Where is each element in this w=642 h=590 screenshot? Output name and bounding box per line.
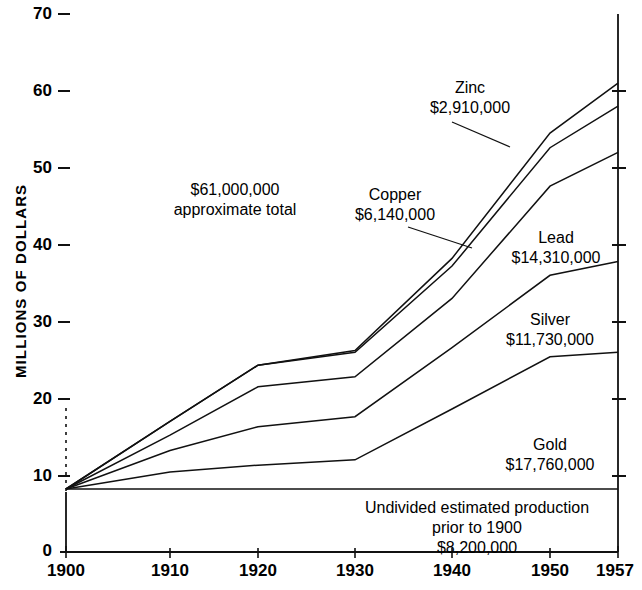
annotation-lead: Lead $14,310,000	[476, 228, 636, 268]
y-tick-marks-right	[612, 91, 626, 476]
x-tick-label-1920: 1920	[226, 562, 290, 580]
y-tick-marks-left	[58, 14, 70, 552]
y-axis-title: MILLIONS OF DOLLARS	[12, 184, 29, 378]
data-series-layer	[66, 83, 618, 489]
x-tick-label-1930: 1930	[323, 562, 387, 580]
y-tick-label-20: 20	[6, 390, 52, 407]
annotation-undivided-line2: prior to 1900	[338, 518, 616, 538]
annotation-zinc-amount: $2,910,000	[390, 98, 550, 118]
x-tick-label-1910: 1910	[138, 562, 202, 580]
annotation-lead-label: Lead	[476, 228, 636, 248]
y-tick-label-0: 0	[6, 542, 52, 559]
annotation-silver: Silver $11,730,000	[470, 310, 630, 350]
annotation-zinc: Zinc $2,910,000	[390, 78, 550, 118]
annotation-undivided: Undivided estimated production prior to …	[338, 498, 616, 558]
x-tick-label-1940: 1940	[420, 562, 484, 580]
annotation-copper-label: Copper	[315, 185, 475, 205]
annotation-gold: Gold $17,760,000	[470, 435, 630, 475]
annotation-silver-amount: $11,730,000	[470, 330, 630, 350]
x-tick-label-1950: 1950	[518, 562, 582, 580]
annotation-copper: Copper $6,140,000	[315, 185, 475, 225]
leader-line-zinc	[452, 122, 510, 147]
annotation-silver-label: Silver	[470, 310, 630, 330]
y-tick-label-10: 10	[6, 467, 52, 484]
annotation-total-line1: $61,000,000	[140, 180, 330, 200]
annotation-gold-amount: $17,760,000	[470, 455, 630, 475]
annotation-gold-label: Gold	[470, 435, 630, 455]
annotation-lead-amount: $14,310,000	[476, 248, 636, 268]
annotation-copper-amount: $6,140,000	[315, 205, 475, 225]
annotation-total: $61,000,000 approximate total	[140, 180, 330, 220]
y-tick-label-70: 70	[6, 5, 52, 22]
leader-line-copper	[408, 227, 472, 248]
annotation-undivided-line1: Undivided estimated production	[338, 498, 616, 518]
annotation-zinc-label: Zinc	[390, 78, 550, 98]
production-value-chart: 70 60 50 40 30 20 10 0 MILLIONS OF DOLLA…	[0, 0, 642, 590]
annotation-undivided-line3: $8,200,000	[338, 538, 616, 558]
y-tick-label-60: 60	[6, 82, 52, 99]
annotation-total-line2: approximate total	[140, 200, 330, 220]
x-tick-label-1957: 1957	[583, 562, 642, 580]
y-tick-label-50: 50	[6, 159, 52, 176]
x-tick-label-1900: 1900	[34, 562, 98, 580]
series-line-copper-cumulative	[66, 106, 618, 489]
